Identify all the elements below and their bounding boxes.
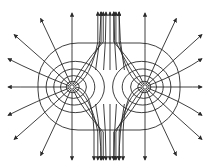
field-line-up: [119, 12, 124, 70]
field-line: [14, 35, 70, 85]
field-line: [147, 89, 202, 139]
field-line-diagram: [0, 0, 210, 168]
field-line-up: [96, 12, 101, 70]
field-line: [146, 90, 176, 156]
field-line: [41, 90, 71, 156]
field-line: [8, 59, 69, 86]
field-line: [147, 35, 202, 85]
charge-right: [143, 85, 147, 89]
field-line: [14, 89, 70, 139]
field-line-down: [104, 104, 106, 160]
field-line-down: [96, 104, 101, 160]
field-line-down: [119, 104, 124, 160]
field-line: [8, 88, 69, 115]
charge-left: [70, 85, 74, 89]
field-line: [41, 19, 71, 85]
field-line: [146, 19, 176, 85]
field-line-up: [104, 12, 106, 70]
electric-field-lines: [8, 12, 202, 160]
